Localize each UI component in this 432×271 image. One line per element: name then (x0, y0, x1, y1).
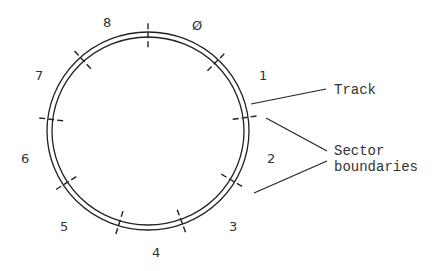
sector-boundary-mark-2 (233, 116, 259, 120)
sector-label-7: 7 (35, 68, 43, 83)
sector-label-0: Ø (192, 18, 202, 33)
sector-label-2: 2 (267, 151, 275, 166)
track-callout-label: Track (334, 82, 376, 98)
track-callout: Track (251, 82, 376, 104)
sector-boundary-leader-upper (266, 118, 327, 151)
sector-boundaries-label-line2: boundaries (334, 159, 418, 175)
sector-boundary-mark-5 (115, 211, 123, 235)
sector-label-5: 5 (60, 219, 68, 234)
sector-boundary-mark-4 (177, 210, 186, 234)
track-outer-edge (47, 32, 249, 230)
sector-boundary-mark-1 (207, 52, 225, 70)
track-inner-edge (52, 37, 244, 225)
sector-boundaries-label-line1: Sector (334, 143, 384, 159)
sector-boundaries-callout: Sector boundaries (254, 118, 418, 193)
track-leader-line (251, 89, 326, 104)
sector-boundary-mark-7 (37, 118, 63, 121)
sector-label-3: 3 (229, 219, 237, 234)
sector-label-4: 4 (152, 245, 160, 260)
sector-labels: Ø 1 2 3 4 5 6 7 8 (21, 15, 275, 260)
track-ring (47, 32, 249, 230)
sector-label-6: 6 (21, 151, 29, 166)
sector-label-1: 1 (259, 68, 267, 83)
sector-label-8: 8 (103, 15, 111, 30)
sector-boundary-marks (37, 22, 258, 236)
sector-boundary-leader-lower (254, 161, 327, 193)
sector-boundary-mark-8 (73, 50, 90, 69)
track-sector-diagram: Ø 1 2 3 4 5 6 7 8 Track Sector boundarie… (0, 0, 432, 271)
